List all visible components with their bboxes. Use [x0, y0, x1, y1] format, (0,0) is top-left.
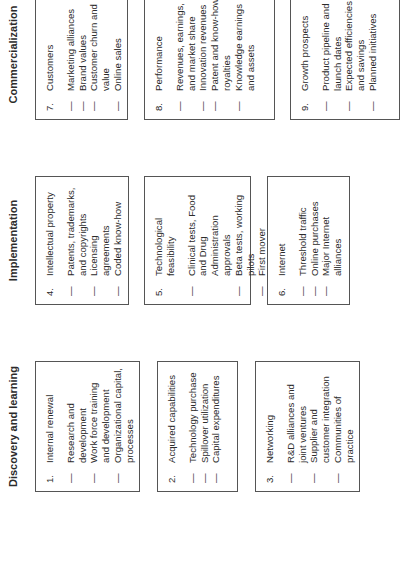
list-item: —Spillover utilization [199, 368, 211, 483]
list-item: —Communities of practice [332, 368, 356, 483]
dash-bullet-icon: — [367, 91, 379, 111]
dash-bullet-icon: — [297, 276, 309, 296]
box-number: 8. [153, 91, 165, 111]
box-title-text: Intellectual property [44, 192, 56, 276]
dash-bullet-icon: — [343, 91, 367, 111]
list-item: —Online sales [112, 0, 124, 111]
dash-bullet-icon: — [210, 463, 222, 483]
dash-bullet-icon: — [88, 276, 112, 296]
dash-bullet-icon: — [199, 463, 211, 483]
box-title-text: Customers [44, 45, 56, 91]
item-list: —R&D alliances and joint ventures —Suppl… [285, 368, 356, 483]
box-title-text: Performance [153, 36, 165, 91]
box-customers: 7. Customers —Marketing alliances —Brand… [35, 0, 128, 120]
list-item: —Capital expenditures [210, 368, 222, 483]
box-internet: 6. Internet —Threshold traffic —Online p… [267, 176, 350, 305]
item-list: —Clinical tests, Food and Drug Administr… [186, 183, 269, 296]
box-title-text: Acquired capabilities [166, 375, 178, 463]
dash-bullet-icon: — [112, 276, 124, 296]
dash-bullet-icon: — [332, 463, 356, 483]
list-item: —Online purchases [309, 183, 321, 296]
list-item: —Customer churn and value [88, 0, 112, 111]
box-title: 2. Acquired capabilities [166, 368, 178, 483]
dash-bullet-icon: — [309, 276, 321, 296]
dash-bullet-icon: — [88, 463, 112, 483]
item-list: —Technology purchase —Spillover utilizat… [187, 368, 222, 483]
box-growth-prospects: 9. Growth prospects —Product pipeline an… [290, 0, 400, 120]
dash-bullet-icon: — [88, 91, 112, 111]
dash-bullet-icon: — [65, 463, 89, 483]
list-item: —Marketing alliances [65, 0, 77, 111]
box-title-text: Internet [276, 243, 288, 276]
dash-bullet-icon: — [187, 463, 199, 483]
box-title: 6. Internet [276, 183, 288, 296]
list-item: —Work force training and development [88, 368, 112, 483]
box-number: 2. [166, 463, 178, 483]
dash-bullet-icon: — [233, 91, 257, 111]
dash-bullet-icon: — [186, 276, 233, 296]
column-header-implementation: Implementation [7, 176, 19, 305]
list-item: —Supplier and customer integration [308, 368, 332, 483]
list-item: —Patent and know-how royalties [209, 0, 233, 111]
list-item: —Expected efficiencies and savings [343, 0, 367, 111]
list-item: —Innovation revenues [197, 0, 209, 111]
box-title: 8. Performance [153, 0, 165, 111]
list-item: —Clinical tests, Food and Drug Administr… [186, 183, 233, 296]
box-title: 1. Internal renewal [44, 368, 56, 483]
dash-bullet-icon: — [320, 91, 344, 111]
list-item: —Licensing agreements [88, 183, 112, 296]
box-number: 4. [44, 276, 56, 296]
column-header-discovery: Discovery and learning [7, 361, 19, 492]
dash-bullet-icon: — [285, 463, 309, 483]
box-number: 9. [299, 91, 311, 111]
box-title: 3. Networking [264, 368, 276, 483]
box-title: 7. Customers [44, 0, 56, 111]
list-item: —Technology purchase [187, 368, 199, 483]
list-item: —Organizational capital, processes [112, 368, 136, 483]
dash-bullet-icon: — [308, 463, 332, 483]
list-item: —Research and development [65, 368, 89, 483]
item-list: —Research and development —Work force tr… [65, 368, 136, 483]
box-title: 5. Technological feasibility [153, 183, 177, 296]
box-networking: 3. Networking —R&D alliances and joint v… [255, 361, 360, 492]
item-list: —Marketing alliances —Brand values —Cust… [65, 0, 124, 111]
column-header-commercialization: Commercialization [7, 0, 19, 120]
box-title: 4. Intellectual property [44, 183, 56, 296]
dash-bullet-icon: — [233, 276, 257, 296]
box-number: 1. [44, 463, 56, 483]
dash-bullet-icon: — [209, 91, 233, 111]
list-item: —Revenues, earnings, and market share [174, 0, 198, 111]
list-item: —Patents, trademarks, and copyrights [65, 183, 89, 296]
box-number: 5. [153, 276, 177, 296]
dash-bullet-icon: — [77, 91, 89, 111]
list-item: —Product pipeline and launch dates [320, 0, 344, 111]
dash-bullet-icon: — [65, 276, 89, 296]
box-number: 6. [276, 276, 288, 296]
box-title-text: Networking [264, 415, 276, 463]
box-title-text: Internal renewal [44, 395, 56, 463]
item-list: —Product pipeline and launch dates —Expe… [320, 0, 379, 111]
item-list: —Patents, trademarks, and copyrights —Li… [65, 183, 124, 296]
dash-bullet-icon: — [112, 91, 124, 111]
box-intellectual-property: 4. Intellectual property —Patents, trade… [35, 176, 129, 305]
dash-bullet-icon: — [65, 91, 77, 111]
box-title: 9. Growth prospects [299, 0, 311, 111]
item-list: —Revenues, earnings, and market share —I… [174, 0, 257, 111]
box-number: 3. [264, 463, 276, 483]
list-item: —Beta tests, working pilots [233, 183, 257, 296]
list-item: —Planned initiatives [367, 0, 379, 111]
list-item: —R&D alliances and joint ventures [285, 368, 309, 483]
list-item: —Threshold traffic [297, 183, 309, 296]
box-title-text: Growth prospects [299, 16, 311, 91]
dash-bullet-icon: — [112, 463, 136, 483]
list-item: —Major Internet alliances [320, 183, 344, 296]
box-technological-feasibility: 5. Technological feasibility —Clinical t… [144, 176, 251, 305]
list-item: —Coded know-how [112, 183, 124, 296]
list-item: —Brand values [77, 0, 89, 111]
box-number: 7. [44, 91, 56, 111]
list-item: —Knowledge earnings and assets [233, 0, 257, 111]
box-acquired-capabilities: 2. Acquired capabilities —Technology pur… [157, 361, 238, 492]
item-list: —Threshold traffic —Online purchases —Ma… [297, 183, 344, 296]
box-title-text: Technological feasibility [153, 183, 177, 276]
